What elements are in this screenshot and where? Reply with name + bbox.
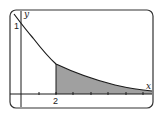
graph-figure: y x 1 2 <box>0 0 163 118</box>
y-intercept-label: 1 <box>14 21 19 31</box>
x-axis-label: x <box>146 81 151 91</box>
y-axis-label: y <box>23 9 30 19</box>
x-tick-label-2: 2 <box>53 96 58 106</box>
